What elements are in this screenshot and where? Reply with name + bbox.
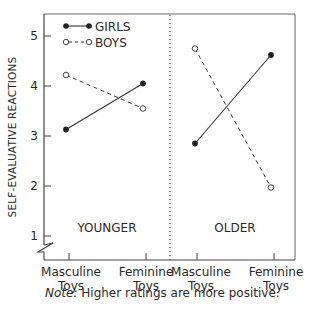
legend: GIRLS BOYS: [63, 20, 130, 50]
filled-circle-icon: [86, 23, 92, 29]
y-axis-title: SELF-EVALUATIVE REACTIONS: [6, 56, 18, 217]
series-line-boys-younger: [66, 75, 143, 109]
open-circle-icon: [268, 185, 274, 191]
y-tick-4: 4: [30, 79, 38, 93]
legend-label-girls: GIRLS: [95, 20, 130, 34]
open-circle-icon: [192, 46, 198, 52]
filled-circle-icon: [268, 52, 274, 58]
y-tick-labels: 5 4 3 2 1: [30, 29, 38, 243]
note-text: Higher ratings are more positive.: [77, 286, 279, 300]
open-circle-icon: [63, 39, 68, 44]
y-tick-2: 2: [30, 179, 38, 193]
legend-label-boys: BOYS: [95, 36, 127, 50]
y-tick-5: 5: [30, 29, 38, 43]
filled-circle-icon: [63, 127, 69, 133]
open-circle-icon: [86, 39, 91, 44]
filled-circle-icon: [192, 141, 198, 147]
legend-girls: GIRLS: [63, 20, 130, 34]
panel-label-older: OLDER: [214, 221, 255, 235]
x-label-2-line1: Feminine: [119, 265, 174, 279]
chart: 5 4 3 2 1 SELF-EVALUATIVE REACTIONS GIRL…: [0, 0, 314, 318]
y-tick-3: 3: [30, 129, 38, 143]
filled-circle-icon: [63, 23, 69, 29]
x-label-1-line1: Masculine: [41, 265, 101, 279]
series-line-girls-younger: [66, 84, 143, 130]
axis-break-icon: [38, 243, 53, 260]
y-tick-1: 1: [30, 229, 38, 243]
panel-label-younger: YOUNGER: [76, 221, 136, 235]
series-line-girls-older: [195, 55, 271, 144]
legend-boys: BOYS: [63, 36, 126, 50]
x-label-3-line1: Masculine: [171, 265, 231, 279]
x-label-4-line1: Feminine: [249, 265, 304, 279]
series-line-boys-older: [195, 49, 271, 188]
chart-note: Note: Higher ratings are more positive.: [45, 286, 280, 300]
filled-circle-icon: [140, 81, 146, 87]
series-layer: [63, 46, 274, 191]
note-prefix: Note:: [45, 286, 77, 300]
y-ticks: [44, 36, 51, 236]
open-circle-icon: [63, 72, 69, 78]
x-ticks: [69, 253, 274, 260]
open-circle-icon: [140, 106, 146, 112]
